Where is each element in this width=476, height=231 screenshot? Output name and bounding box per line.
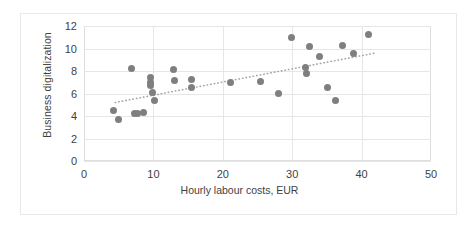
y-tick-label: 8 <box>71 65 77 77</box>
y-tick-label: 0 <box>71 155 77 167</box>
y-tick-label: 4 <box>71 110 77 122</box>
scatter-point <box>188 76 195 83</box>
scatter-point <box>303 70 310 77</box>
scatter-point <box>151 97 158 104</box>
y-tick-label: 6 <box>71 88 77 100</box>
scatter-point <box>275 90 282 97</box>
x-axis-title: Hourly labour costs, EUR <box>21 184 458 196</box>
scatter-point <box>257 78 264 85</box>
x-tick-label: 40 <box>355 168 367 180</box>
scatter-point <box>110 107 117 114</box>
scatter-point <box>332 97 339 104</box>
x-tick-label: 10 <box>147 168 159 180</box>
y-axis-title: Business digitalization <box>41 10 53 160</box>
scatter-point <box>115 116 122 123</box>
y-tick-label: 10 <box>65 43 77 55</box>
scatter-point <box>365 31 372 38</box>
chart-figure: Business digitalization 024681012 010203… <box>20 13 457 215</box>
scatter-point <box>339 42 346 49</box>
x-tick-label: 50 <box>425 168 437 180</box>
x-tick-label: 30 <box>286 168 298 180</box>
scatter-point <box>171 77 178 84</box>
x-tick-label: 0 <box>81 168 87 180</box>
plot-area: 024681012 01020304050 <box>84 26 431 161</box>
x-tick-label: 20 <box>217 168 229 180</box>
scatter-point <box>128 65 135 72</box>
scatter-point <box>350 50 357 57</box>
gridline-horizontal <box>84 161 431 162</box>
y-tick-label: 12 <box>65 20 77 32</box>
y-tick-label: 2 <box>71 133 77 145</box>
scatter-point <box>188 84 195 91</box>
scatter-point <box>147 82 154 89</box>
scatter-point <box>306 43 313 50</box>
trendline <box>84 26 431 161</box>
